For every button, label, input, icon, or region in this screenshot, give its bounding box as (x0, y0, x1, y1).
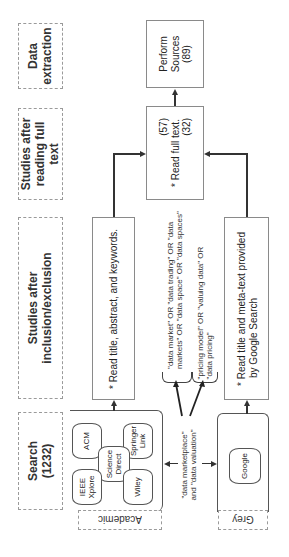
full-text-bullet: * Read full text. (169, 108, 181, 198)
academic-screening-text: * Read title, abstract, and keywords. (108, 228, 120, 388)
sources-line: Sources (169, 36, 181, 73)
full-text-content: (57) * Read full text. (32) (158, 108, 193, 198)
sources-count: (89) (181, 36, 193, 73)
stage-label: Studies after reading full text (20, 113, 61, 195)
stage-full-text: Studies after reading full text (18, 108, 63, 200)
stage-label: Data extraction (27, 26, 55, 86)
database-label: IEEE Xplore (78, 472, 96, 502)
grey-screening-box: * Read title and meta-text provided by G… (224, 217, 269, 400)
grey-screening-line1: * Read title and meta-text provided (235, 232, 247, 386)
arrow-up-icon (172, 89, 178, 95)
connector-line (210, 153, 247, 155)
database-wiley: Wiley (123, 469, 153, 505)
database-label: Springer Link (129, 426, 147, 456)
arrow-up-icon (111, 400, 117, 406)
terms-line: "data marketplace" (180, 429, 189, 500)
arrow-left-icon (164, 461, 170, 467)
grey-screening-line2: by Google Search (247, 232, 259, 386)
arrow-right-icon (140, 151, 146, 157)
database-label: ACM (82, 432, 91, 450)
stage-inclusion-exclusion: Studies after inclusion/exclusion (18, 217, 63, 399)
grey-label: Grey (219, 511, 267, 529)
terms-line: "data market" OR "data trading" OR "data (166, 211, 175, 369)
base-search-terms: "data marketplace" and "data valuation" (172, 405, 206, 525)
grey-count: (32) (181, 108, 193, 198)
database-label: Wiley (133, 477, 142, 497)
stage-search: Search (1232) (18, 412, 63, 510)
terms-line: markets" OR "data space" OR "data spaces… (175, 211, 184, 369)
database-label: Google (240, 453, 249, 479)
connector-line (170, 463, 178, 464)
base-terms-text: "data marketplace" and "data valuation" (180, 429, 198, 500)
perform-sources-box: Perform Sources (89) (146, 20, 204, 88)
arrow-left-icon (204, 151, 210, 157)
stage-label: Search (1232) (27, 431, 55, 491)
database-google: Google (229, 448, 261, 484)
perform-line: Perform (158, 36, 170, 73)
database-label: Science Direct (105, 447, 123, 481)
search-terms-text: "pricing model" OR "valuing data" OR "da… (196, 246, 214, 379)
terms-line: "data pricing" (205, 246, 214, 379)
terms-line: and "data valuation" (189, 429, 198, 500)
connector-line (246, 153, 248, 217)
search-terms-group1: "data market" OR "data trading" OR "data… (158, 215, 192, 365)
academic-count: (57) (158, 108, 170, 198)
database-ieee-xplore: IEEE Xplore (72, 469, 102, 505)
perform-sources-text: Perform Sources (89) (158, 36, 193, 73)
academic-screening-box: * Read title, abstract, and keywords. (92, 217, 135, 400)
stage-data-extraction: Data extraction (18, 23, 63, 89)
full-text-box: (57) * Read full text. (32) (146, 106, 204, 200)
arrow-up-icon (244, 400, 250, 406)
terms-line: "pricing model" OR "valuing data" OR (196, 246, 205, 379)
academic-label-box: Academic (78, 510, 162, 530)
grey-screening-text: * Read title and meta-text provided by G… (235, 232, 258, 386)
grey-label-box: Grey (218, 510, 268, 530)
search-terms-text: "data market" OR "data trading" OR "data… (166, 211, 184, 369)
academic-label: Academic (79, 511, 161, 529)
connector-line (113, 153, 115, 217)
search-terms-group2: "pricing model" OR "valuing data" OR "da… (188, 255, 222, 370)
stage-label: Studies after inclusion/exclusion (27, 233, 55, 383)
connector-line (113, 153, 141, 155)
